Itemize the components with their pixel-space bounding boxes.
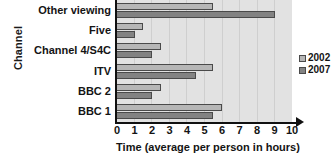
bar-itv-2007 <box>117 72 196 79</box>
bar-itv-2002 <box>117 64 213 71</box>
x-axis-tick-4: 4 <box>184 125 190 136</box>
legend: 2002 2007 <box>299 53 330 75</box>
bar-group-five <box>117 20 292 40</box>
bar-other-viewing-2007 <box>117 11 275 18</box>
x-axis-tick-0: 0 <box>114 125 120 136</box>
legend-item-2007: 2007 <box>299 65 330 75</box>
x-axis-tick-9: 9 <box>271 125 277 136</box>
bar-bbc-2-2002 <box>117 84 161 91</box>
y-axis-label-five: Five <box>20 20 114 40</box>
y-axis-label-channel-4-s4c: Channel 4/S4C <box>20 41 114 61</box>
legend-label-2002: 2002 <box>308 53 330 63</box>
bar-group-bbc-1 <box>117 102 292 122</box>
legend-swatch-icon-2007 <box>299 67 306 74</box>
y-axis-label-bbc-1: BBC 1 <box>20 102 114 122</box>
y-axis-label-other-viewing: Other viewing <box>20 0 114 20</box>
plot-area <box>117 0 292 122</box>
bar-five-2002 <box>117 23 143 30</box>
x-axis-tick-1: 1 <box>131 125 137 136</box>
x-axis-title: Time (average per person in hours) <box>108 141 308 153</box>
bar-chart: Channel Other viewing Five Channel 4/S4C… <box>0 0 336 166</box>
legend-swatch-icon-2002 <box>299 55 306 62</box>
bar-groups <box>117 0 292 122</box>
y-axis-line <box>115 0 117 124</box>
y-axis-label-bbc-2: BBC 2 <box>20 81 114 101</box>
x-axis-tick-5: 5 <box>201 125 207 136</box>
x-axis-tick-3: 3 <box>166 125 172 136</box>
bar-bbc-2-2007 <box>117 92 152 99</box>
bar-channel-4-s4c-2002 <box>117 43 161 50</box>
x-axis-tick-8: 8 <box>254 125 260 136</box>
bar-bbc-1-2007 <box>117 112 213 119</box>
bar-other-viewing-2002 <box>117 3 213 10</box>
x-axis-tick-labels: 012345678910 <box>117 125 292 139</box>
bar-group-channel-4-s4c <box>117 41 292 61</box>
y-axis-category-labels: Other viewing Five Channel 4/S4C ITV BBC… <box>20 0 114 122</box>
x-axis-tick-10: 10 <box>286 125 298 136</box>
legend-item-2002: 2002 <box>299 53 330 63</box>
y-axis-label-itv: ITV <box>20 61 114 81</box>
x-axis-tick-6: 6 <box>219 125 225 136</box>
legend-label-2007: 2007 <box>308 65 330 75</box>
x-axis-tick-2: 2 <box>149 125 155 136</box>
bar-group-itv <box>117 61 292 81</box>
bar-channel-4-s4c-2007 <box>117 51 152 58</box>
x-axis-tick-7: 7 <box>236 125 242 136</box>
bar-bbc-1-2002 <box>117 104 222 111</box>
bar-five-2007 <box>117 31 135 38</box>
bar-group-other-viewing <box>117 0 292 20</box>
bar-group-bbc-2 <box>117 81 292 101</box>
